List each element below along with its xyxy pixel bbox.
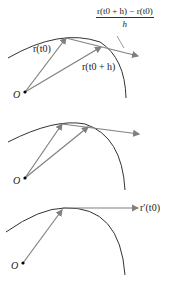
difference-quotient-denominator: h [96,18,154,29]
origin-label: O [13,176,20,186]
panel-tangent [6,208,138,275]
panel-secant [8,36,138,98]
origin-point [23,176,26,179]
curve [6,208,125,275]
curve [8,123,125,190]
difference-quotient-label: r(t0 + h) − r(t0) h [96,6,154,29]
label-r-t0-plus-h: r(t0 + h) [82,62,115,72]
diagram-canvas [0,0,172,287]
origin-point [23,90,26,93]
label-leader [117,36,124,48]
origin-point [21,261,24,264]
panel-secant-smaller-h [8,123,139,190]
difference-quotient-numerator: r(t0 + h) − r(t0) [96,6,154,18]
label-r-prime-t0: r′(t0) [140,203,160,213]
origin-label: O [11,261,18,271]
vector-r-t0-plus-h [25,127,88,178]
label-r-t0: r(t0) [33,44,51,54]
secant-vector [66,38,138,56]
origin-label: O [13,90,20,100]
